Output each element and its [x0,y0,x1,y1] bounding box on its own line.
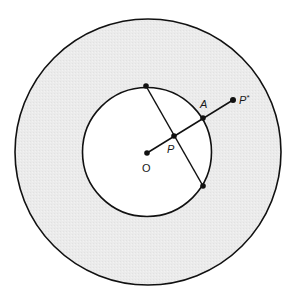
label-p: P [167,143,175,155]
label-a: A [199,98,207,110]
point-chord-top [143,83,149,89]
inversion-diagram: O P A P* [0,0,296,300]
point-p-star [230,97,236,103]
point-p [171,133,177,139]
point-a [200,115,206,121]
point-o [144,150,150,156]
label-o: O [142,162,151,174]
point-chord-bottom [200,183,206,189]
